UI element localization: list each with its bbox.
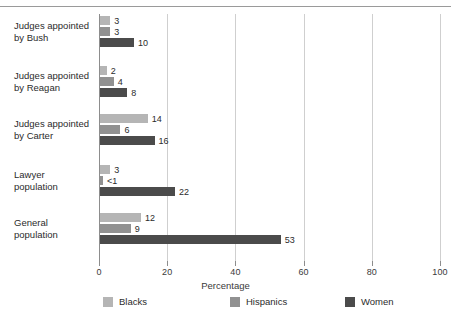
gridline-100 xyxy=(440,14,441,265)
bar-3-1 xyxy=(100,176,103,185)
bar-3-0 xyxy=(100,165,110,174)
legend-item-women[interactable]: Women xyxy=(345,296,394,307)
bar-value-1-0: 2 xyxy=(111,67,116,76)
bar-value-2-0: 14 xyxy=(152,115,162,124)
bar-1-2 xyxy=(100,88,127,97)
x-tick-label-0: 0 xyxy=(84,267,114,277)
legend-label: Women xyxy=(361,296,394,307)
legend-item-blacks[interactable]: Blacks xyxy=(103,296,147,307)
top-divider-rule xyxy=(0,6,451,7)
category-label-3: Lawyerpopulation xyxy=(14,169,98,192)
bar-value-2-2: 16 xyxy=(159,137,169,146)
x-tick-label-100: 100 xyxy=(425,267,451,277)
legend-swatch-icon xyxy=(230,297,240,307)
bar-value-4-1: 9 xyxy=(135,225,140,234)
bar-1-0 xyxy=(100,66,107,75)
category-label-line: Lawyer xyxy=(14,169,98,181)
category-label-line: General xyxy=(14,217,98,229)
bar-4-2 xyxy=(100,235,281,244)
category-label-line: by Bush xyxy=(14,32,98,44)
gridline-60 xyxy=(304,14,305,265)
legend-label: Blacks xyxy=(119,296,147,307)
category-label-line: Judges appointed xyxy=(14,118,98,130)
bar-value-1-1: 4 xyxy=(118,78,123,87)
bar-4-1 xyxy=(100,224,131,233)
bar-value-4-2: 53 xyxy=(285,236,295,245)
x-tick-label-80: 80 xyxy=(357,267,387,277)
x-tick-label-20: 20 xyxy=(152,267,182,277)
bar-value-0-0: 3 xyxy=(114,17,119,26)
legend-item-hispanics[interactable]: Hispanics xyxy=(230,296,287,307)
x-tick-label-60: 60 xyxy=(289,267,319,277)
chart-legend: BlacksHispanicsWomen xyxy=(0,296,451,316)
bar-2-0 xyxy=(100,114,148,123)
legend-swatch-icon xyxy=(345,297,355,307)
bar-value-0-1: 3 xyxy=(114,28,119,37)
bar-value-3-0: 3 xyxy=(114,166,119,175)
bar-value-3-2: 22 xyxy=(179,188,189,197)
bar-2-1 xyxy=(100,125,120,134)
bar-4-0 xyxy=(100,213,141,222)
category-label-line: by Carter xyxy=(14,130,98,142)
gridline-40 xyxy=(235,14,236,265)
category-label-line: Judges appointed xyxy=(14,20,98,32)
gridline-80 xyxy=(372,14,373,265)
legend-swatch-icon xyxy=(103,297,113,307)
bar-1-1 xyxy=(100,77,114,86)
category-label-0: Judges appointedby Bush xyxy=(14,20,98,43)
category-label-line: by Reagan xyxy=(14,82,98,94)
category-label-2: Judges appointedby Carter xyxy=(14,118,98,141)
category-label-4: Generalpopulation xyxy=(14,217,98,240)
tick-mark-20 xyxy=(167,261,168,266)
grouped-bar-chart: 020406080100 Judges appointedby BushJudg… xyxy=(0,10,451,278)
x-tick-label-40: 40 xyxy=(220,267,250,277)
bar-value-4-0: 12 xyxy=(145,214,155,223)
bar-0-1 xyxy=(100,27,110,36)
legend-label: Hispanics xyxy=(246,296,287,307)
x-axis-title: Percentage xyxy=(0,280,451,291)
bar-3-2 xyxy=(100,187,175,196)
tick-mark-60 xyxy=(304,261,305,266)
bar-0-0 xyxy=(100,16,110,25)
bar-2-2 xyxy=(100,136,155,145)
bar-value-2-1: 6 xyxy=(124,126,129,135)
category-label-line: population xyxy=(14,229,98,241)
category-label-line: population xyxy=(14,181,98,193)
bar-value-0-2: 10 xyxy=(138,39,148,48)
bar-value-3-1: <1 xyxy=(107,177,117,186)
tick-mark-40 xyxy=(235,261,236,266)
category-label-1: Judges appointedby Reagan xyxy=(14,70,98,93)
bar-value-1-2: 8 xyxy=(131,89,136,98)
tick-mark-80 xyxy=(372,261,373,266)
tick-mark-0 xyxy=(99,261,100,266)
tick-mark-100 xyxy=(440,261,441,266)
bar-0-2 xyxy=(100,38,134,47)
category-label-line: Judges appointed xyxy=(14,70,98,82)
